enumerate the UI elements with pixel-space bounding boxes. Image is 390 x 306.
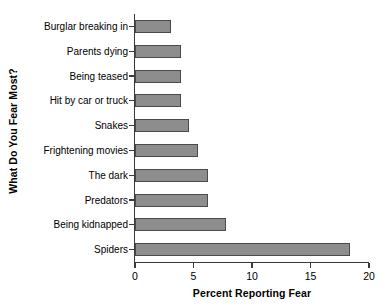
bar xyxy=(135,45,181,58)
y-axis-tick xyxy=(129,75,134,76)
y-axis-tick-label: Hit by car or truck xyxy=(50,94,128,107)
bar xyxy=(135,20,171,33)
y-axis-tick-label: Spiders xyxy=(94,243,128,256)
bar xyxy=(135,94,181,107)
y-axis-title-text: What Do You Fear Most? xyxy=(7,68,19,193)
bar-chart: What Do You Fear Most? Burglar breaking … xyxy=(0,0,390,306)
x-axis-tick xyxy=(251,263,252,268)
bar xyxy=(135,144,198,157)
y-axis-tick-label: Being teased xyxy=(70,70,128,83)
y-axis-tick xyxy=(129,199,134,200)
x-axis-tick-label: 15 xyxy=(296,270,326,283)
y-axis-tick-label: The dark xyxy=(89,169,128,182)
y-axis-title: What Do You Fear Most? xyxy=(0,0,26,262)
bar xyxy=(135,218,226,231)
bar xyxy=(135,70,181,83)
y-axis-tick xyxy=(129,150,134,151)
y-axis-tick-label: Being kidnapped xyxy=(53,218,128,231)
y-axis-tick-label: Snakes xyxy=(95,119,128,132)
x-axis-tick xyxy=(134,263,135,268)
x-axis-tick-label: 0 xyxy=(120,270,150,283)
x-axis-tick xyxy=(368,263,369,268)
y-axis-tick xyxy=(129,175,134,176)
plot-area: 05101520 xyxy=(135,14,369,262)
y-axis-tick-label: Burglar breaking in xyxy=(44,20,128,33)
bar xyxy=(135,119,189,132)
x-axis-tick-label: 10 xyxy=(237,270,267,283)
y-axis-tick xyxy=(129,125,134,126)
bar xyxy=(135,169,208,182)
y-axis-tick xyxy=(129,224,134,225)
x-axis-tick-label: 20 xyxy=(354,270,384,283)
y-axis-tick-label: Parents dying xyxy=(67,45,128,58)
y-axis-tick xyxy=(129,249,134,250)
y-axis-tick-label: Frightening movies xyxy=(44,144,128,157)
y-axis-tick-labels: Burglar breaking inParents dyingBeing te… xyxy=(24,14,128,262)
bar xyxy=(135,194,208,207)
x-axis-tick xyxy=(310,263,311,268)
x-axis-tick-label: 5 xyxy=(179,270,209,283)
bar xyxy=(135,243,350,256)
y-axis-tick xyxy=(129,26,134,27)
x-axis-tick xyxy=(193,263,194,268)
x-axis-title: Percent Reporting Fear xyxy=(135,287,369,299)
y-axis-tick xyxy=(129,100,134,101)
y-axis-tick-label: Predators xyxy=(85,194,128,207)
y-axis-tick xyxy=(129,51,134,52)
